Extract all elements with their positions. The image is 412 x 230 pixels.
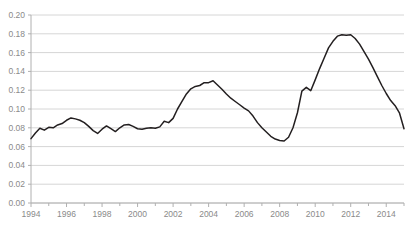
y-tick-label-0.00: 0.00 (8, 198, 25, 208)
x-tick-label-2004: 2004 (199, 209, 218, 219)
gridlines-group (31, 15, 404, 203)
y-tick-label-0.04: 0.04 (8, 160, 25, 170)
x-tick-label-1998: 1998 (93, 209, 112, 219)
x-tick-label-2010: 2010 (306, 209, 325, 219)
x-tick-label-2008: 2008 (270, 209, 289, 219)
y-axis-tick-labels-group: 0.000.020.040.060.080.100.120.140.160.18… (8, 10, 25, 208)
y-tick-label-0.12: 0.12 (8, 85, 25, 95)
y-tick-label-0.10: 0.10 (8, 104, 25, 114)
data-line-series-1 (31, 35, 404, 141)
x-tick-label-2014: 2014 (377, 209, 396, 219)
y-tick-label-0.16: 0.16 (8, 48, 25, 58)
x-tick-label-2002: 2002 (164, 209, 183, 219)
y-tick-label-0.08: 0.08 (8, 123, 25, 133)
data-series-group (31, 35, 404, 141)
x-tick-label-1994: 1994 (22, 209, 41, 219)
y-tick-label-0.06: 0.06 (8, 142, 25, 152)
x-tick-label-2000: 2000 (128, 209, 147, 219)
chart-canvas: 0.000.020.040.060.080.100.120.140.160.18… (0, 0, 412, 230)
y-tick-label-0.20: 0.20 (8, 10, 25, 20)
x-tick-label-1996: 1996 (57, 209, 76, 219)
x-tick-label-2006: 2006 (235, 209, 254, 219)
y-tick-label-0.02: 0.02 (8, 179, 25, 189)
y-tick-label-0.18: 0.18 (8, 29, 25, 39)
x-tick-label-2012: 2012 (341, 209, 360, 219)
x-axis-tick-labels-group: 1994199619982000200220042006200820102012… (22, 209, 396, 219)
x-axis-ticks-group (31, 203, 404, 207)
y-tick-label-0.14: 0.14 (8, 66, 25, 76)
line-chart: 0.000.020.040.060.080.100.120.140.160.18… (0, 0, 412, 230)
